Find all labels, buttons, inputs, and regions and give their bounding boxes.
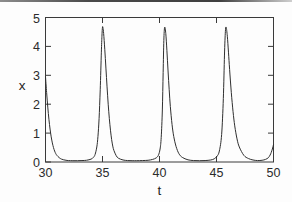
x-axis-title: t [158,183,162,198]
y-tick-label-1: 1 [33,127,40,141]
data-series-line [46,27,274,161]
y-tick-label-5: 5 [33,12,40,26]
figure-canvas: 0 1 2 3 4 5 30 35 40 45 50 t x [0,0,292,202]
y-tick-label-4: 4 [33,40,40,54]
x-tick-label-35: 35 [96,166,110,180]
y-tick-label-2: 2 [33,98,40,112]
x-tick-label-30: 30 [39,166,53,180]
plot-frame [46,18,274,163]
y-tick-label-3: 3 [33,69,40,83]
x-tick-label-40: 40 [153,166,167,180]
line-chart: 0 1 2 3 4 5 30 35 40 45 50 t x [0,0,292,202]
y-axis-ticks-right [268,46,274,133]
x-tick-label-50: 50 [267,166,281,180]
x-tick-label-45: 45 [210,166,224,180]
x-axis-ticks-top [103,18,217,24]
y-axis-title: x [19,78,26,93]
